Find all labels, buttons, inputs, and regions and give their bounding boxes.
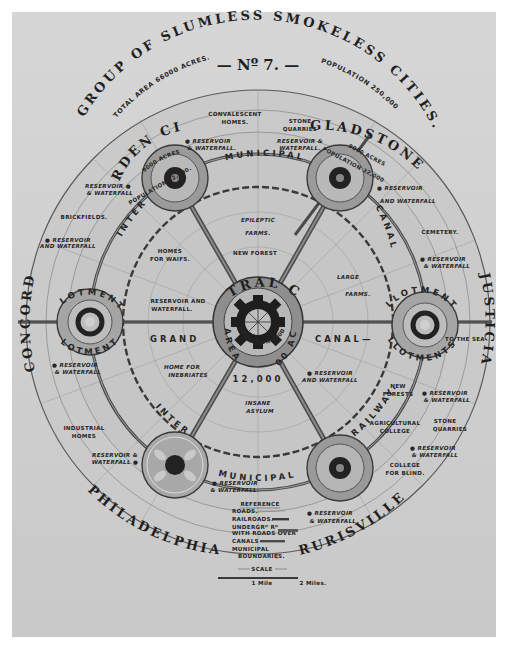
reservoir-label-6: ● RESERVOIR: [420, 256, 466, 262]
cemetery-label: CEMETERY.: [422, 229, 459, 235]
satellite-city-philadelphia: [142, 432, 208, 498]
svg-text:QUARRIES: QUARRIES: [433, 426, 467, 432]
svg-text:FARMS.: FARMS.: [245, 230, 270, 236]
to-the-sea-label: TO THE SEA: [445, 336, 485, 342]
svg-text:& WATERFALL: & WATERFALL: [424, 263, 471, 269]
garden-city-diagram: — Nº 7. — GROUP OF SLUMLESS SMOKELESS CI…: [0, 0, 507, 652]
new-forest-label: NEW FOREST: [233, 250, 277, 256]
svg-text:& WATERFALL: & WATERFALL: [87, 190, 134, 196]
insane-asylum-label: INSANE: [245, 400, 270, 406]
svg-text:FARMS.: FARMS.: [345, 291, 370, 297]
scale-bar: [218, 577, 298, 579]
epileptic-farms-label: EPILEPTIC: [241, 217, 276, 223]
svg-text:COLLEGE: COLLEGE: [380, 428, 410, 434]
svg-text:WATERFALL.: WATERFALL.: [279, 145, 320, 151]
svg-text:& WATERFALL: & WATERFALL: [412, 452, 459, 458]
reservoir-label-9: RESERVOIR &: [92, 452, 138, 458]
grand-label: GRAND: [150, 334, 199, 344]
svg-text:WATERFALL ●: WATERFALL ●: [92, 459, 138, 465]
reservoir-label-7: ● RESERVOIR: [307, 370, 353, 376]
reservoir-label-12: ● RESERVOIR: [212, 480, 258, 486]
convalescent-homes-label: CONVALESCENT: [208, 111, 261, 117]
central-population-value: 12,000: [233, 374, 284, 384]
reservoir-and-waterfall-label: RESERVOIR AND: [150, 298, 205, 304]
stone-quarries-label: STONE: [289, 118, 312, 124]
legend-item-railroads: RAILROADS.: [232, 516, 273, 522]
reservoir-label-13: ● RESERVOIR: [307, 510, 353, 516]
svg-text:FOR WAIFS.: FOR WAIFS.: [150, 256, 190, 262]
legend-item-municipal: MUNICIPAL: [232, 546, 269, 552]
svg-text:HOMES: HOMES: [72, 433, 96, 439]
large-farms-label: LARGE: [337, 274, 359, 280]
svg-text:& WATERFALL.: & WATERFALL.: [211, 487, 260, 493]
svg-text:& WATERFALL.: & WATERFALL.: [188, 145, 237, 151]
home-for-inebriates-label: HOME FOR: [164, 364, 200, 370]
svg-text:FORESTS: FORESTS: [383, 391, 414, 397]
svg-text:& WATERFALL: & WATERFALL: [55, 369, 102, 375]
reservoir-label-10: ● RESERVOIR: [422, 390, 468, 396]
legend-title: REFERENCE: [240, 501, 279, 507]
legend-item-roads: ROADS.: [232, 508, 258, 514]
college-for-blind-label: COLLEGE: [390, 462, 420, 468]
svg-text:AND WATERFALL: AND WATERFALL: [379, 198, 436, 204]
legend-item-canals: CANALS: [232, 538, 259, 544]
svg-text:WATERFALL.: WATERFALL.: [151, 306, 193, 312]
reservoir-label-4: ● RESERVOIR: [377, 185, 423, 191]
svg-text:HOMES.: HOMES.: [222, 119, 249, 125]
svg-text:QUARRIES: QUARRIES: [283, 126, 317, 132]
stone-quarries-label-2: STONE: [434, 418, 457, 424]
svg-text:INEBRIATES: INEBRIATES: [168, 372, 208, 378]
canal-right-label: CANAL—: [315, 334, 373, 344]
scale-2-miles: 2 Miles.: [300, 580, 327, 586]
homes-for-waifs-label: HOMES: [158, 248, 182, 254]
svg-text:& WATERFALL: & WATERFALL: [424, 397, 471, 403]
svg-text:BOUNDARIES.: BOUNDARIES.: [238, 553, 285, 559]
scale-label: SCALE: [251, 566, 272, 572]
svg-text:& WATERFALL: & WATERFALL: [310, 518, 357, 524]
reservoir-label-8: ● RESERVOIR: [52, 362, 98, 368]
svg-text:FOR BLIND.: FOR BLIND.: [385, 470, 424, 476]
svg-text:ASYLUM: ASYLUM: [245, 408, 274, 414]
svg-text:AND WATERFALL: AND WATERFALL: [39, 243, 96, 249]
reservoir-label-3: RESERVOIR ●: [85, 183, 131, 189]
reservoir-label-11: ● RESERVOIR: [410, 445, 456, 451]
svg-text:AND WATERFALL: AND WATERFALL: [301, 377, 358, 383]
agricultural-college-label: AGRICULTURAL: [370, 420, 421, 426]
brickfields-label: BRICKFIELDS.: [61, 214, 108, 220]
diagram-number: — Nº 7. —: [217, 56, 300, 74]
reservoir-label-1: ● RESERVOIR: [185, 138, 231, 144]
reservoir-label-2: RESERVOIR &: [277, 138, 323, 144]
satellite-city-rurisville: [307, 435, 373, 501]
scale-1-mile: 1 Mile: [252, 580, 273, 586]
new-forests-label: NEW: [390, 383, 406, 389]
industrial-homes-label: INDUSTRIAL: [63, 425, 104, 431]
